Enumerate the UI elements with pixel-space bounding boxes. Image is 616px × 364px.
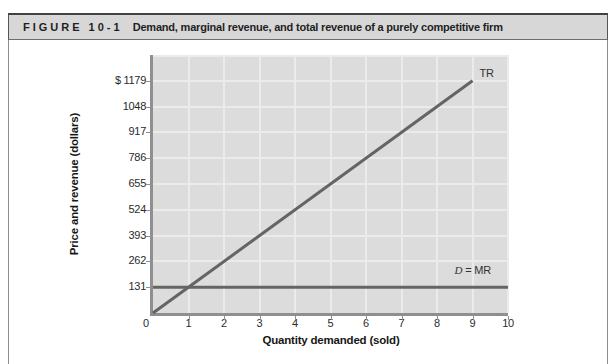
tick-mark — [402, 316, 403, 320]
y-tick-label: 393 — [88, 229, 146, 242]
tick-mark — [260, 316, 261, 320]
y-tick-label: 786 — [88, 151, 146, 164]
y-tick-label: 655 — [88, 177, 146, 190]
y-tick-label: 524 — [88, 203, 146, 216]
tick-mark — [146, 287, 150, 288]
x-axis-title: Quantity demanded (sold) — [153, 334, 509, 346]
tick-mark — [331, 316, 332, 320]
tick-mark — [146, 184, 150, 185]
tick-mark — [224, 316, 225, 320]
figure-header: FIGURE 10-1 Demand, marginal revenue, an… — [8, 13, 608, 40]
y-tick-label: 131 — [88, 280, 146, 293]
tick-mark — [146, 81, 150, 82]
figure-title: Demand, marginal revenue, and total reve… — [133, 21, 503, 33]
tick-mark — [473, 316, 474, 320]
tick-mark — [146, 261, 150, 262]
series-label-TR: TR — [480, 67, 494, 79]
label-part: TR — [480, 67, 494, 79]
tick-mark — [295, 316, 296, 320]
series-label-D=MR: D = MR — [455, 264, 491, 276]
tick-mark — [146, 210, 150, 211]
plot-area: TRD = MR — [150, 55, 508, 316]
tick-mark — [146, 236, 150, 237]
tick-mark — [146, 107, 150, 108]
y-tick-label: 262 — [88, 254, 146, 267]
tick-mark — [366, 316, 367, 320]
tick-mark — [146, 132, 150, 133]
figure-label: FIGURE 10-1 — [23, 21, 123, 33]
tick-mark — [437, 316, 438, 320]
y-tick-label: 1048 — [88, 100, 146, 113]
tick-mark — [508, 316, 509, 320]
series-line-TR — [153, 81, 473, 313]
label-part: = MR — [462, 264, 491, 276]
y-tick-label: $ 1179 — [88, 74, 146, 87]
tick-mark — [189, 316, 190, 320]
x-tick-label: 0 — [133, 317, 159, 330]
tick-mark — [146, 158, 150, 159]
y-axis-title: Price and revenue (dollars) — [68, 113, 80, 255]
y-tick-label: 917 — [88, 125, 146, 138]
